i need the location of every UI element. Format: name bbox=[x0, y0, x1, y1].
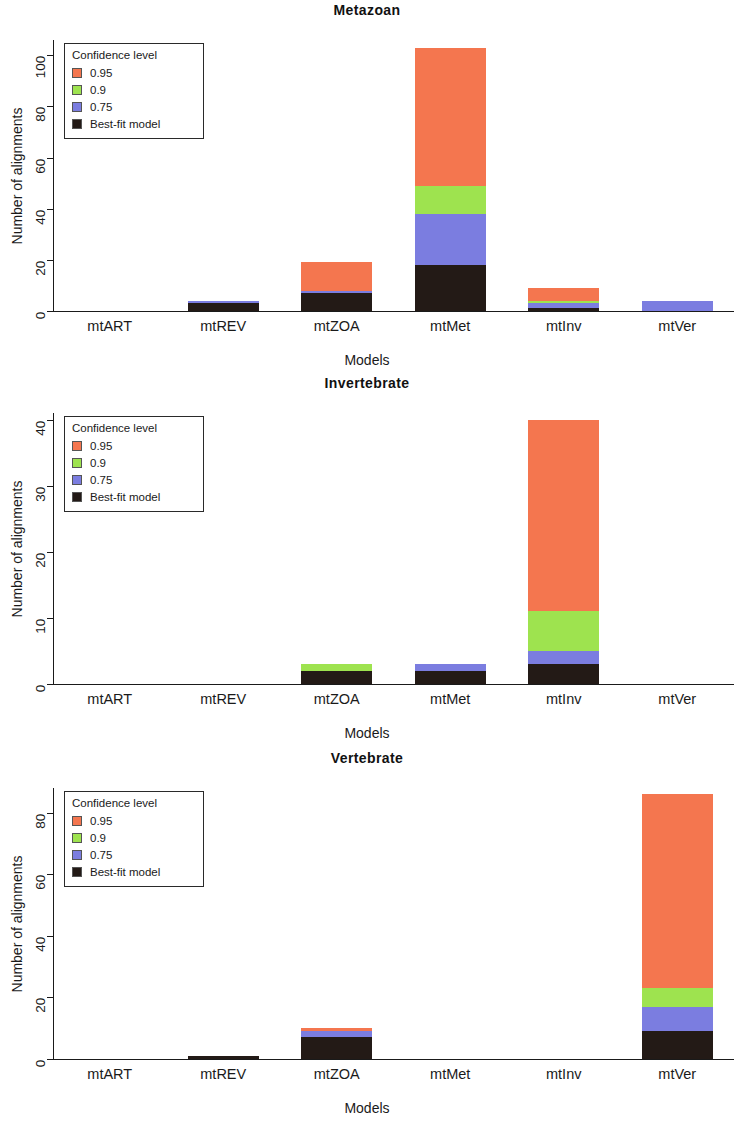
bar-segment-0-9 bbox=[301, 664, 372, 671]
x-axis-label: Models bbox=[0, 1100, 734, 1116]
bar-segment-0-95 bbox=[528, 420, 599, 612]
legend-swatch-0-75 bbox=[72, 102, 82, 112]
legend-label: 0.9 bbox=[90, 832, 106, 844]
x-axis-tick-label-mtmet: mtMet bbox=[394, 691, 508, 707]
legend-item[interactable]: 0.9 bbox=[72, 454, 196, 471]
legend-item[interactable]: 0.95 bbox=[72, 812, 196, 829]
panel-title: Metazoan bbox=[0, 2, 734, 18]
y-axis-tick-label: 40 bbox=[34, 937, 48, 952]
bar-mtrev bbox=[188, 301, 259, 311]
y-axis-tick-label: 40 bbox=[34, 209, 48, 224]
legend-label: 0.75 bbox=[90, 849, 112, 861]
legend-item[interactable]: 0.95 bbox=[72, 437, 196, 454]
bar-segment-0-95 bbox=[415, 48, 486, 186]
x-axis-tick-label-mtart: mtART bbox=[53, 318, 167, 334]
y-axis-tick bbox=[47, 311, 53, 312]
bar-segment-best-fit-model bbox=[188, 1056, 259, 1059]
y-axis-label: Number of alignments bbox=[9, 481, 25, 618]
y-axis-tick-label: 80 bbox=[34, 813, 48, 828]
chart-panel-vertebrate: VertebrateNumber of alignmentsmtARTmtREV… bbox=[0, 748, 734, 1121]
legend-item[interactable]: 0.9 bbox=[72, 829, 196, 846]
bar-mtzoa bbox=[301, 1028, 372, 1059]
x-axis-tick-label-mtinv: mtInv bbox=[507, 318, 621, 334]
legend: Confidence level0.950.90.75Best-fit mode… bbox=[64, 416, 204, 512]
y-axis-tick-label: 100 bbox=[34, 56, 48, 79]
bar-segment-0-95 bbox=[301, 1028, 372, 1031]
y-axis-tick bbox=[47, 1059, 53, 1060]
x-axis-tick-label-mtrev: mtREV bbox=[167, 1066, 281, 1082]
x-axis-line bbox=[53, 1059, 734, 1060]
legend-item[interactable]: Best-fit model bbox=[72, 115, 196, 132]
x-axis-label: Models bbox=[0, 725, 734, 741]
y-axis-tick-label: 80 bbox=[34, 107, 48, 122]
legend-label: 0.9 bbox=[90, 84, 106, 96]
legend-swatch-best-fit-model bbox=[72, 119, 82, 129]
x-axis-tick-label-mtzoa: mtZOA bbox=[280, 691, 394, 707]
legend-item[interactable]: 0.75 bbox=[72, 471, 196, 488]
legend-item[interactable]: 0.75 bbox=[72, 846, 196, 863]
legend-swatch-0-9 bbox=[72, 458, 82, 468]
legend-swatch-best-fit-model bbox=[72, 492, 82, 502]
y-axis-tick-label: 30 bbox=[34, 486, 48, 501]
y-axis-label-holder: Number of alignments bbox=[8, 40, 26, 312]
y-axis-tick bbox=[47, 684, 53, 685]
legend-item[interactable]: Best-fit model bbox=[72, 863, 196, 880]
legend-label: Best-fit model bbox=[90, 491, 160, 503]
legend-label: 0.95 bbox=[90, 67, 112, 79]
legend-swatch-0-9 bbox=[72, 85, 82, 95]
legend-title: Confidence level bbox=[72, 49, 196, 61]
chart-panel-invertebrate: InvertebrateNumber of alignmentsmtARTmtR… bbox=[0, 373, 734, 746]
bar-segment-0-95 bbox=[528, 288, 599, 301]
x-axis-tick-label-mtzoa: mtZOA bbox=[280, 318, 394, 334]
bar-segment-0-9 bbox=[528, 611, 599, 651]
legend-swatch-0-75 bbox=[72, 850, 82, 860]
y-axis-line bbox=[53, 40, 54, 312]
x-axis-tick-label-mtmet: mtMet bbox=[394, 1066, 508, 1082]
y-axis-tick-label: 0 bbox=[34, 685, 48, 693]
y-axis-label: Number of alignments bbox=[9, 856, 25, 993]
panel-title: Invertebrate bbox=[0, 375, 734, 391]
bar-segment-best-fit-model bbox=[301, 1037, 372, 1059]
y-axis-tick-label: 10 bbox=[34, 619, 48, 634]
legend-label: 0.9 bbox=[90, 457, 106, 469]
y-axis-tick-label: 0 bbox=[34, 312, 48, 320]
y-axis-tick bbox=[47, 55, 53, 56]
bar-segment-0-75 bbox=[528, 651, 599, 664]
x-axis-line bbox=[53, 684, 734, 685]
x-axis-tick-label-mtrev: mtREV bbox=[167, 318, 281, 334]
bar-segment-0-75 bbox=[188, 301, 259, 304]
panel-title: Vertebrate bbox=[0, 750, 734, 766]
legend-label: 0.95 bbox=[90, 440, 112, 452]
bar-segment-best-fit-model bbox=[188, 303, 259, 311]
legend-item[interactable]: 0.95 bbox=[72, 64, 196, 81]
x-axis-tick-label-mtart: mtART bbox=[53, 691, 167, 707]
y-axis-tick-label: 20 bbox=[34, 261, 48, 276]
bar-mtmet bbox=[415, 48, 486, 311]
x-axis-tick-label-mtver: mtVer bbox=[621, 1066, 734, 1082]
legend-item[interactable]: 0.9 bbox=[72, 81, 196, 98]
bar-mtver bbox=[642, 301, 713, 311]
bar-segment-0-95 bbox=[642, 794, 713, 988]
bar-segment-0-75 bbox=[415, 664, 486, 671]
bar-segment-best-fit-model bbox=[301, 293, 372, 311]
bar-mtinv bbox=[528, 420, 599, 684]
legend-swatch-0-95 bbox=[72, 68, 82, 78]
x-axis-tick-label-mtrev: mtREV bbox=[167, 691, 281, 707]
legend-label: 0.75 bbox=[90, 474, 112, 486]
legend-label: Best-fit model bbox=[90, 118, 160, 130]
y-axis-label-holder: Number of alignments bbox=[8, 413, 26, 685]
x-axis-tick-label-mtinv: mtInv bbox=[507, 691, 621, 707]
bar-segment-0-9 bbox=[642, 988, 713, 1006]
y-axis-tick-label: 60 bbox=[34, 875, 48, 890]
y-axis-tick-label: 40 bbox=[34, 420, 48, 435]
legend-item[interactable]: Best-fit model bbox=[72, 488, 196, 505]
legend-swatch-0-95 bbox=[72, 816, 82, 826]
y-axis-tick-label: 60 bbox=[34, 158, 48, 173]
y-axis-tick-label: 20 bbox=[34, 998, 48, 1013]
bar-segment-best-fit-model bbox=[415, 265, 486, 311]
figure-root: MetazoanNumber of alignmentsmtARTmtREVmt… bbox=[0, 0, 734, 1121]
y-axis-line bbox=[53, 413, 54, 685]
legend-item[interactable]: 0.75 bbox=[72, 98, 196, 115]
bar-segment-best-fit-model bbox=[528, 308, 599, 311]
y-axis-tick-label: 20 bbox=[34, 553, 48, 568]
